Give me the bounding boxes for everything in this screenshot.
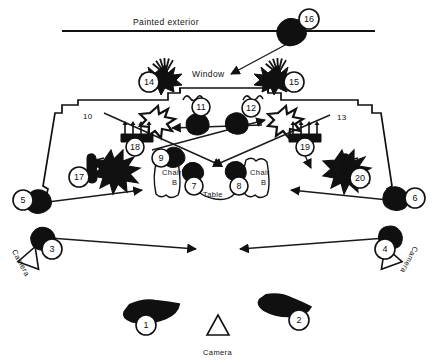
marker-number: 11 <box>196 102 205 112</box>
splatter-floor-left <box>140 106 175 138</box>
painted-exterior-label: Painted exterior <box>133 17 199 27</box>
camera-bottom[interactable] <box>207 315 229 335</box>
marker-number: 20 <box>355 173 365 183</box>
evidence-marker-18[interactable]: 18 <box>126 138 144 156</box>
evidence-marker-14[interactable]: 14 <box>139 72 159 92</box>
arrow-5-to-table <box>40 190 142 203</box>
marker-number: 8 <box>236 181 241 191</box>
marker-13-label: 13 <box>337 113 347 122</box>
evidence-marker-15[interactable]: 15 <box>284 72 304 92</box>
marker-number: 17 <box>74 172 84 182</box>
diagram-canvas: 123456789111214151617181920 <box>0 0 437 360</box>
chair-left-label: Chair <box>162 168 182 177</box>
marker-number: 5 <box>20 195 25 205</box>
camera-layer <box>18 243 402 335</box>
marker-number: 16 <box>304 14 314 24</box>
evidence-marker-6[interactable]: 6 <box>405 188 425 208</box>
camera-bottom-label: Camera <box>203 348 232 357</box>
marker-number: 2 <box>296 315 301 325</box>
evidence-marker-2[interactable]: 2 <box>289 310 309 330</box>
marker-number: 4 <box>382 244 387 254</box>
window-label: Window <box>192 69 225 79</box>
marker-number: 12 <box>246 103 256 113</box>
evidence-marker-1[interactable]: 1 <box>136 315 156 335</box>
marker-number: 14 <box>144 77 154 87</box>
chair-left-label-b: B <box>172 178 177 187</box>
rake-tine-head <box>131 121 136 125</box>
evidence-marker-5[interactable]: 5 <box>13 190 33 210</box>
evidence-marker-4[interactable]: 4 <box>375 239 395 259</box>
marker-number: 18 <box>130 142 140 152</box>
evidence-marker-17[interactable]: 17 <box>69 167 89 187</box>
marker-number: 1 <box>143 320 148 330</box>
marker-10-label: 10 <box>83 112 93 121</box>
chair-right-label: Chair <box>250 168 270 177</box>
arrow-layer <box>40 36 398 249</box>
evidence-marker-19[interactable]: 19 <box>296 138 314 156</box>
evidence-marker-20[interactable]: 20 <box>350 168 370 188</box>
evidence-marker-3[interactable]: 3 <box>42 239 62 259</box>
arrow-camera3-right <box>50 238 196 249</box>
evidence-marker-11[interactable]: 11 <box>192 98 210 116</box>
chair-right-label-b: B <box>261 178 266 187</box>
evidence-marker-9[interactable]: 9 <box>152 149 170 167</box>
camera-icon <box>207 315 229 335</box>
marker-number: 15 <box>289 77 299 87</box>
table-label: Table <box>203 190 223 199</box>
splatter-floor-right <box>268 106 303 138</box>
marker-number: 3 <box>49 244 54 254</box>
marker-number: 6 <box>412 193 417 203</box>
crime-scene-diagram: 123456789111214151617181920 Painted exte… <box>0 0 437 360</box>
evidence-marker-7[interactable]: 7 <box>185 177 203 195</box>
evidence-marker-16[interactable]: 16 <box>299 9 319 29</box>
evidence-marker-8[interactable]: 8 <box>230 177 248 195</box>
splatter-spiky-left <box>92 150 140 194</box>
marker-number: 9 <box>158 153 163 163</box>
marker-number: 19 <box>300 142 310 152</box>
evidence-marker-12[interactable]: 12 <box>242 99 260 117</box>
marker-number: 7 <box>191 181 196 191</box>
arrow-camera4-left <box>240 238 386 249</box>
